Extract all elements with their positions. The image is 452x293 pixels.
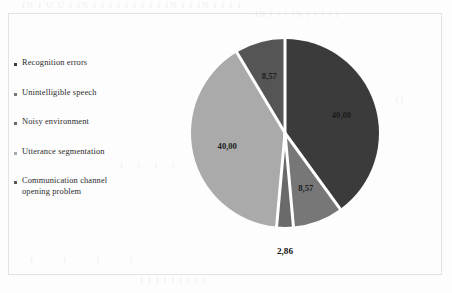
pie-svg: 40,008,572,8640,008,57 xyxy=(190,38,380,228)
legend-item[interactable]: Communication channelopening problem xyxy=(14,176,174,197)
legend-swatch-icon xyxy=(14,152,17,155)
legend-item[interactable]: Utterance segmentation xyxy=(14,147,174,158)
pie-chart-figure: IN I U U I IN I I I I I I I I I IN I I I… xyxy=(0,0,452,293)
legend-item[interactable]: Recognition errors xyxy=(14,58,174,69)
pie-plot-area: 40,008,572,8640,008,57 xyxy=(190,38,380,228)
pie-slice-value-label: 8,57 xyxy=(298,183,314,193)
legend-item[interactable]: Unintelligible speech xyxy=(14,88,174,99)
legend-swatch-icon xyxy=(14,93,17,96)
legend-item-label: Utterance segmentation xyxy=(22,147,105,158)
pie-slice-value-label: 40,00 xyxy=(332,110,351,120)
legend-swatch-icon xyxy=(14,181,17,184)
pie-slice-value-label: 40,00 xyxy=(218,141,237,151)
pie-slice-value-label: 8,57 xyxy=(262,71,278,81)
pie-slice-value-label: 2,86 xyxy=(277,246,293,256)
legend-item-label: Communication channelopening problem xyxy=(22,176,107,197)
legend-item[interactable]: Noisy environment xyxy=(14,117,174,128)
bleed-through-text-1: IN I U U I IN I I I I I I I I I IN I I I… xyxy=(22,0,242,10)
legend-item-label: Recognition errors xyxy=(22,58,87,69)
legend-swatch-icon xyxy=(14,122,17,125)
legend-item-label: Unintelligible speech xyxy=(22,88,97,99)
bleed-through-text-3: I I I I I I I I I xyxy=(140,275,207,285)
chart-legend: Recognition errorsUnintelligible speechN… xyxy=(14,58,174,197)
legend-item-label: Noisy environment xyxy=(22,117,89,128)
legend-swatch-icon xyxy=(14,63,17,66)
